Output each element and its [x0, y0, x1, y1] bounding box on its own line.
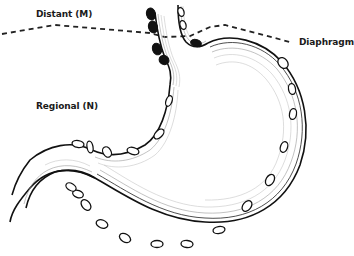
diaphragm-label: Diaphragm — [299, 37, 354, 47]
regional-node — [152, 127, 165, 140]
regional-node — [126, 146, 139, 156]
regional-label: Regional (N) — [36, 101, 98, 111]
distant-label: Distant (M) — [36, 9, 92, 19]
distant-node — [151, 42, 164, 56]
regional-node — [101, 145, 113, 159]
regional-node — [288, 83, 297, 95]
regional-node — [181, 240, 194, 248]
diaphragm-line — [2, 25, 290, 42]
regional-node — [79, 198, 93, 212]
regional-node — [118, 232, 132, 245]
regional-node — [86, 141, 94, 154]
regional-node — [95, 218, 109, 230]
regional-node — [164, 95, 173, 107]
regional-node — [212, 226, 225, 235]
regional-node — [289, 108, 298, 120]
regional-node — [151, 241, 163, 248]
regional-node — [71, 140, 84, 149]
regional-nodes — [64, 7, 297, 248]
regional-node — [264, 173, 277, 187]
